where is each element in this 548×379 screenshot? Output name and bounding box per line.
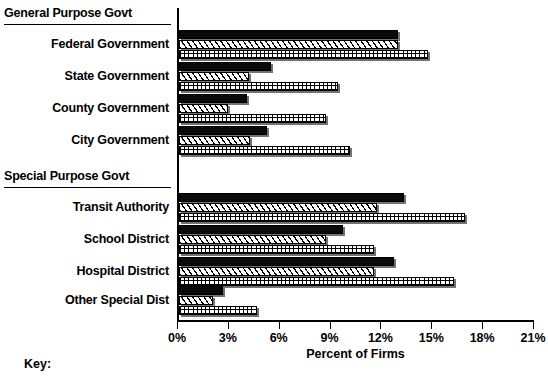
- bar-city-government-series-1-solid: [179, 126, 267, 135]
- group-header-general-purpose-govt: General Purpose Govt: [4, 6, 132, 20]
- bar-hospital-district-series-1-solid: [179, 257, 394, 266]
- x-tick-21: [533, 322, 534, 329]
- category-label-state-government: State Government: [65, 69, 169, 83]
- bar-school-district-series-3-grid: [179, 245, 374, 254]
- x-tick-18: [482, 322, 483, 329]
- category-label-column: General Purpose Govt Federal Government …: [0, 0, 175, 320]
- bar-transit-authority-series-1-solid: [179, 193, 404, 202]
- key-label: Key:: [24, 357, 51, 371]
- x-axis-line: [177, 320, 534, 322]
- x-tick-12: [380, 322, 381, 329]
- bar-hospital-district-series-3-grid: [179, 277, 454, 286]
- bar-federal-government-series-3-grid: [179, 50, 428, 59]
- category-label-hospital-district: Hospital District: [77, 264, 169, 278]
- bar-school-district-series-2-diagonal: [179, 235, 326, 244]
- x-tick-label-0: 0%: [168, 331, 186, 345]
- x-tick-label-9: 9%: [321, 331, 339, 345]
- bar-transit-authority-series-3-grid: [179, 213, 465, 222]
- bar-hospital-district-series-2-diagonal: [179, 267, 374, 276]
- bar-county-government-series-2-diagonal: [179, 104, 228, 113]
- group-header-rule-special: [4, 187, 171, 188]
- x-tick-15: [431, 322, 432, 329]
- category-label-other-special-dist: Other Special Dist: [65, 293, 169, 307]
- x-tick-label-12: 12%: [368, 331, 393, 345]
- category-label-county-government: County Government: [52, 101, 169, 115]
- bar-federal-government-series-2-diagonal: [179, 40, 398, 49]
- bar-school-district-series-1-solid: [179, 225, 343, 234]
- bar-city-government-series-2-diagonal: [179, 136, 250, 145]
- group-header-rule-general: [4, 24, 171, 25]
- group-header-special-purpose-govt: Special Purpose Govt: [4, 169, 129, 183]
- bar-other-special-dist-series-2-diagonal: [179, 296, 213, 305]
- x-tick-label-3: 3%: [219, 331, 237, 345]
- category-label-transit-authority: Transit Authority: [73, 200, 169, 214]
- bar-state-government-series-3-grid: [179, 82, 338, 91]
- bar-other-special-dist-series-3-grid: [179, 306, 257, 315]
- bar-county-government-series-3-grid: [179, 114, 326, 123]
- x-tick-label-18: 18%: [470, 331, 495, 345]
- x-tick-9: [330, 322, 331, 329]
- x-tick-label-15: 15%: [419, 331, 444, 345]
- category-label-city-government: City Government: [71, 133, 169, 147]
- bar-state-government-series-2-diagonal: [179, 72, 249, 81]
- bar-chart: General Purpose Govt Federal Government …: [0, 0, 548, 379]
- x-tick-label-6: 6%: [270, 331, 288, 345]
- x-tick-label-21: 21%: [520, 331, 545, 345]
- bar-other-special-dist-series-1-solid: [179, 286, 223, 295]
- plot-area: [177, 8, 535, 320]
- bar-state-government-series-1-solid: [179, 62, 271, 71]
- x-tick-0: [177, 322, 178, 329]
- category-label-school-district: School District: [84, 232, 169, 246]
- x-tick-3: [228, 322, 229, 329]
- category-label-federal-government: Federal Government: [51, 37, 169, 51]
- bar-transit-authority-series-2-diagonal: [179, 203, 377, 212]
- bar-county-government-series-1-solid: [179, 94, 247, 103]
- x-axis-title: Percent of Firms: [177, 347, 534, 361]
- bar-city-government-series-3-grid: [179, 146, 350, 155]
- bar-federal-government-series-1-solid: [179, 30, 398, 39]
- x-tick-6: [279, 322, 280, 329]
